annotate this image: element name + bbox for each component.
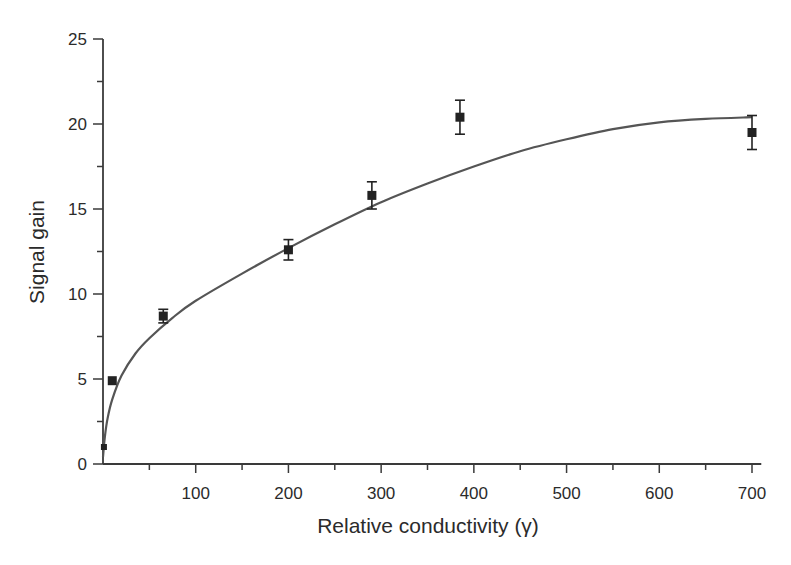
data-point xyxy=(158,309,168,323)
square-marker xyxy=(159,312,168,321)
square-marker xyxy=(101,444,107,450)
data-points xyxy=(101,100,757,450)
chart: 0510152025 100200300400500600700 Signal … xyxy=(0,0,791,565)
data-point xyxy=(108,376,117,385)
x-axis: 100200300400500600700 xyxy=(103,464,766,503)
y-tick-label: 0 xyxy=(78,455,87,474)
square-marker xyxy=(367,191,376,200)
y-axis-title: Signal gain xyxy=(25,200,48,304)
data-point xyxy=(283,240,293,260)
x-tick-label: 300 xyxy=(367,484,395,503)
y-axis: 0510152025 xyxy=(68,30,103,474)
y-tick-label: 10 xyxy=(68,285,87,304)
x-tick-label: 200 xyxy=(274,484,302,503)
data-point xyxy=(455,100,465,134)
x-axis-title: Relative conductivity (γ) xyxy=(317,514,539,537)
data-point xyxy=(101,444,107,450)
x-tick-label: 700 xyxy=(738,484,766,503)
square-marker xyxy=(108,376,117,385)
fit-curve xyxy=(103,117,752,457)
x-tick-label: 100 xyxy=(182,484,210,503)
y-tick-label: 25 xyxy=(68,30,87,49)
x-tick-label: 400 xyxy=(460,484,488,503)
y-tick-label: 20 xyxy=(68,115,87,134)
x-tick-label: 500 xyxy=(552,484,580,503)
x-tick-label: 600 xyxy=(645,484,673,503)
square-marker xyxy=(748,128,757,137)
y-tick-label: 15 xyxy=(68,200,87,219)
square-marker xyxy=(284,245,293,254)
y-tick-label: 5 xyxy=(78,370,87,389)
data-point xyxy=(747,116,757,150)
square-marker xyxy=(455,113,464,122)
